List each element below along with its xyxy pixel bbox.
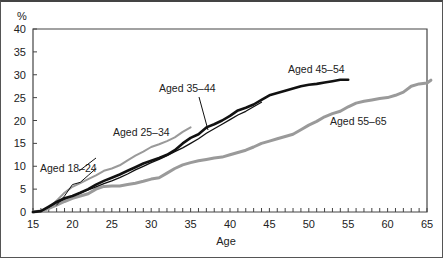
y-tick-label: 30 <box>14 69 26 81</box>
series-label: Aged 25–34 <box>113 126 170 138</box>
series-label: Aged 45–54 <box>288 63 345 75</box>
x-tick-label: 60 <box>381 218 393 230</box>
series-55-65 <box>33 80 431 212</box>
y-axis-title: % <box>17 10 27 22</box>
x-tick-label: 35 <box>184 218 196 230</box>
series-label: Aged 35–44 <box>159 82 216 94</box>
x-tick-label: 45 <box>263 218 275 230</box>
x-tick-label: 30 <box>145 218 157 230</box>
y-tick-label: 10 <box>14 160 26 172</box>
y-tick-label: 25 <box>14 92 26 104</box>
x-axis-title: Age <box>216 235 236 247</box>
y-tick-label: 20 <box>14 115 26 127</box>
y-tick-label: 15 <box>14 137 26 149</box>
y-tick-label: 5 <box>20 183 26 195</box>
y-tick-label: 0 <box>20 206 26 218</box>
x-tick-label: 55 <box>342 218 354 230</box>
x-tick-label: 25 <box>106 218 118 230</box>
series-label: Aged 55–65 <box>330 115 387 127</box>
x-tick-label: 15 <box>27 218 39 230</box>
x-tick-label: 40 <box>224 218 236 230</box>
y-tick-label: 40 <box>14 23 26 35</box>
label-leader-line <box>199 97 208 130</box>
x-tick-label: 50 <box>303 218 315 230</box>
line-chart: 05101520253035401520253035404550556065 A… <box>0 0 445 260</box>
x-tick-label: 65 <box>421 218 433 230</box>
series-lines <box>33 80 431 212</box>
y-tick-label: 35 <box>14 46 26 58</box>
x-tick-label: 20 <box>66 218 78 230</box>
